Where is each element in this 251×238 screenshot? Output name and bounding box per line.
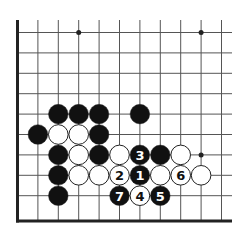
- white-stone: [69, 166, 89, 186]
- move-number-label: 6: [176, 168, 185, 183]
- move-number-label: 7: [115, 189, 124, 204]
- white-stone: [151, 166, 171, 186]
- black-stone-circle: [49, 166, 69, 186]
- black-stone-circle: [89, 104, 109, 124]
- white-stone: [69, 145, 89, 165]
- white-stone-circle: [69, 166, 89, 186]
- black-stone-circle: [28, 125, 48, 145]
- black-stone: [151, 145, 171, 165]
- black-stone-circle: [151, 145, 171, 165]
- star-point: [76, 30, 81, 35]
- white-stone: 2: [110, 166, 130, 186]
- white-stone-circle: [69, 145, 89, 165]
- black-stone-circle: [89, 125, 109, 145]
- move-number-label: 1: [135, 168, 144, 183]
- black-stone: [130, 104, 150, 124]
- black-stone: [49, 145, 69, 165]
- black-stone-circle: [49, 104, 69, 124]
- black-stone: 1: [130, 166, 150, 186]
- move-number-label: 5: [156, 189, 165, 204]
- white-stone-circle: [191, 166, 211, 186]
- white-stone-circle: [171, 145, 191, 165]
- star-point: [199, 152, 204, 157]
- white-stone: [191, 166, 211, 186]
- black-stone-circle: [69, 104, 89, 124]
- white-stone-circle: [49, 125, 69, 145]
- black-stone-circle: [49, 186, 69, 206]
- white-stone: [110, 145, 130, 165]
- white-stone-circle: [69, 125, 89, 145]
- black-stone-circle: [130, 104, 150, 124]
- black-stone-circle: [49, 145, 69, 165]
- star-point: [199, 30, 204, 35]
- black-stone: 3: [130, 145, 150, 165]
- move-number-label: 3: [135, 148, 144, 163]
- black-stone: 5: [151, 186, 171, 206]
- white-stone: [69, 125, 89, 145]
- white-stone: [89, 166, 109, 186]
- black-stone: [28, 125, 48, 145]
- white-stone-circle: [110, 145, 130, 165]
- move-number-label: 2: [115, 168, 124, 183]
- black-stone: [49, 104, 69, 124]
- black-stone: [49, 166, 69, 186]
- black-stone: [89, 125, 109, 145]
- white-stone-circle: [89, 166, 109, 186]
- black-stone: [89, 145, 109, 165]
- white-stone: 4: [130, 186, 150, 206]
- white-stone: [171, 145, 191, 165]
- go-board: 3216745: [0, 0, 251, 238]
- black-stone-circle: [89, 145, 109, 165]
- move-number-label: 4: [135, 189, 144, 204]
- black-stone: 7: [110, 186, 130, 206]
- white-stone-circle: [151, 166, 171, 186]
- white-stone: 6: [171, 166, 191, 186]
- white-stone: [49, 125, 69, 145]
- black-stone: [69, 104, 89, 124]
- black-stone: [89, 104, 109, 124]
- black-stone: [49, 186, 69, 206]
